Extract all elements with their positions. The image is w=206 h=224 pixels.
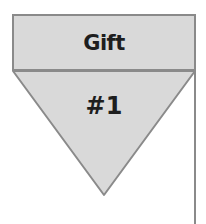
marker-number: #1 <box>62 92 146 120</box>
triangle-marker <box>13 71 195 195</box>
gift-header-box: Gift <box>12 14 196 71</box>
gift-label: Gift <box>83 31 125 55</box>
